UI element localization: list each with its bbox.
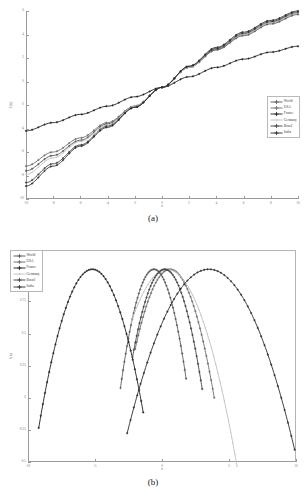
y-tick	[26, 58, 29, 59]
x-tick	[229, 459, 230, 462]
x-tick-label: -6	[79, 202, 82, 205]
y-tick	[26, 105, 29, 106]
x-tick	[271, 196, 272, 199]
y-tick	[28, 366, 31, 367]
y-tick	[28, 301, 31, 302]
legend-marker-icon	[270, 111, 283, 117]
curves-b	[28, 250, 296, 462]
legend-label: Germany	[26, 273, 40, 277]
y-tick	[26, 129, 29, 130]
y-tick-label: 2	[14, 56, 24, 59]
legend-marker-icon	[13, 284, 26, 290]
legend-b: WorldUSAFranceGermanyBrazilIndia	[10, 250, 43, 292]
y-tick-label: 0	[16, 396, 26, 399]
legend-label: World	[26, 254, 36, 258]
y-tick-label: 0.75	[16, 300, 26, 303]
y-tick-label: 0.25	[16, 364, 26, 367]
caption-a: (a)	[148, 214, 158, 223]
x-tick	[80, 196, 81, 199]
caption-b: (b)	[148, 478, 159, 487]
x-tick	[162, 459, 163, 462]
x-tick	[216, 196, 217, 199]
y-tick	[28, 462, 31, 463]
legend-label: India	[26, 285, 34, 289]
legend-marker-icon	[270, 105, 283, 111]
y-tick	[28, 398, 31, 399]
legend-marker-icon	[270, 99, 283, 105]
y-tick-label: -10	[14, 197, 24, 200]
y-tick-label: -6	[14, 150, 24, 153]
legend-marker-icon	[270, 123, 283, 129]
figure-container: -10-8-6-4-20246810-10-8-6-4-20246 x F(x)…	[0, 0, 306, 503]
legend-label: France	[26, 266, 37, 270]
x-axis-label-a: x	[161, 204, 163, 208]
x-tick-label: 6	[243, 202, 245, 205]
y-axis-label-a: F(x)	[9, 102, 13, 109]
x-tick-label: -8	[52, 202, 55, 205]
y-tick-label: -0.25	[16, 428, 26, 431]
legend-marker-icon	[13, 265, 26, 271]
y-tick	[26, 199, 29, 200]
x-tick-label: -10	[26, 465, 31, 468]
x-tick-label: -10	[24, 202, 29, 205]
y-tick	[26, 176, 29, 177]
y-tick	[26, 82, 29, 83]
x-tick-label: 10	[294, 465, 297, 468]
y-tick-label: -0.5	[16, 460, 26, 463]
y-tick-label: 6	[14, 9, 24, 12]
legend-label: USA	[283, 106, 291, 110]
plot-b: -10-50510-0.5-0.2500.250.50.751 x f(x)	[28, 250, 296, 462]
y-axis-label-b: f(x)	[9, 353, 13, 359]
legend-label: Brazil	[283, 125, 293, 129]
x-tick-label: 10	[296, 202, 299, 205]
x-tick	[95, 459, 96, 462]
y-tick-label: 0.5	[16, 332, 26, 335]
curves-a	[26, 11, 298, 199]
legend-label: France	[283, 112, 294, 116]
legend-marker-icon	[13, 277, 26, 283]
legend-marker-icon	[13, 271, 26, 277]
legend-marker-icon	[13, 259, 26, 265]
x-tick	[108, 196, 109, 199]
y-tick-label: -2	[14, 103, 24, 106]
x-tick	[296, 459, 297, 462]
legend-item-india[interactable]: India	[270, 130, 297, 136]
legend-label: World	[283, 100, 293, 104]
x-tick	[162, 196, 163, 199]
legend-label: Germany	[283, 119, 297, 123]
y-tick	[26, 35, 29, 36]
x-axis-label-b: x	[161, 467, 163, 471]
x-tick	[135, 196, 136, 199]
x-tick-label: 4	[216, 202, 218, 205]
legend-a: WorldUSAFranceGermanyBrazilIndia	[267, 96, 300, 138]
legend-marker-icon	[13, 253, 26, 259]
x-tick-label: -4	[106, 202, 109, 205]
x-tick-label: 2	[188, 202, 190, 205]
y-tick	[28, 430, 31, 431]
y-tick-label: -8	[14, 174, 24, 177]
x-tick	[53, 196, 54, 199]
y-tick-label: 0	[14, 80, 24, 83]
plot-a: -10-8-6-4-20246810-10-8-6-4-20246 x F(x)	[26, 11, 298, 199]
x-tick	[298, 196, 299, 199]
y-tick	[26, 152, 29, 153]
legend-label: Brazil	[26, 279, 36, 283]
x-tick-label: -2	[133, 202, 136, 205]
x-tick	[189, 196, 190, 199]
x-tick-label: 8	[270, 202, 272, 205]
legend-label: India	[283, 131, 291, 135]
x-tick	[244, 196, 245, 199]
panel-b: -10-50510-0.5-0.2500.250.50.751 x f(x) W…	[0, 242, 306, 503]
x-tick-label: 5	[228, 465, 230, 468]
legend-label: USA	[26, 260, 34, 264]
y-tick	[26, 11, 29, 12]
legend-marker-icon	[270, 117, 283, 123]
x-tick-label: -5	[94, 465, 97, 468]
y-tick-label: -4	[14, 127, 24, 130]
y-tick	[28, 334, 31, 335]
y-tick-label: 4	[14, 33, 24, 36]
panel-a: -10-8-6-4-20246810-10-8-6-4-20246 x F(x)…	[0, 0, 306, 240]
legend-item-india[interactable]: India	[13, 284, 40, 290]
legend-marker-icon	[270, 130, 283, 136]
